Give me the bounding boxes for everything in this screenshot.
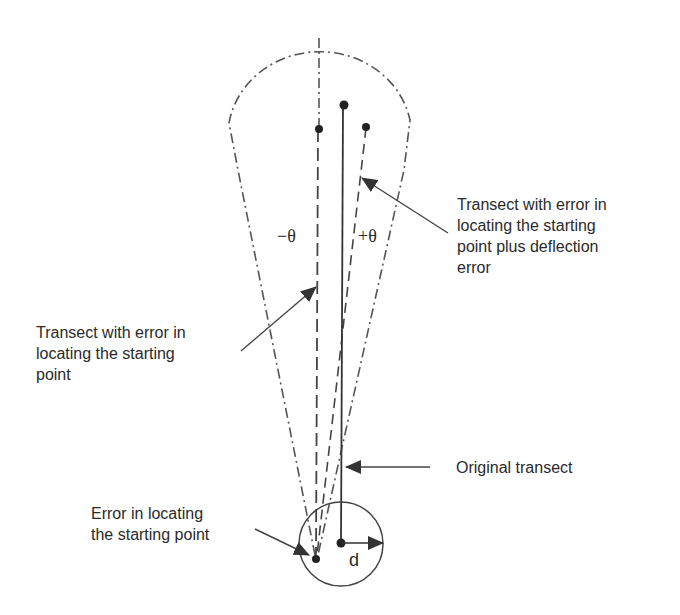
annotation-line: locating the starting [457, 215, 607, 236]
annotation-line: Transect with error in [457, 194, 607, 215]
annotation-original: Original transect [456, 457, 573, 478]
annotation-line: point [36, 364, 186, 385]
annotation-start-error-transect: Transect with error in locating the star… [36, 322, 186, 385]
original-transect [341, 105, 343, 543]
deflected-transect-end-dot [362, 123, 370, 131]
annotation-deflection: Transect with error in locating the star… [457, 194, 607, 278]
annotation-line: Original transect [456, 457, 573, 478]
annotation-line: error [457, 257, 607, 278]
distance-label: d [349, 550, 359, 571]
minus-theta-label: −θ [277, 226, 296, 247]
annotation-line: Transect with error in [36, 322, 186, 343]
annotation-start-error: Error in locating the starting point [91, 503, 209, 545]
annotation-line: point plus deflection [457, 236, 607, 257]
shifted-transect [316, 129, 318, 555]
plus-theta-label: +θ [358, 226, 377, 247]
annotation-line: Error in locating [91, 503, 209, 524]
original-transect-end-dot [340, 101, 349, 110]
shifted-start-dot [312, 555, 320, 563]
arrow-deflection [362, 178, 448, 233]
shifted-transect-end-dot [315, 125, 323, 133]
annotation-line: the starting point [91, 524, 209, 545]
annotation-line: locating the starting [36, 343, 186, 364]
arrow-start-error-transect [241, 287, 316, 351]
